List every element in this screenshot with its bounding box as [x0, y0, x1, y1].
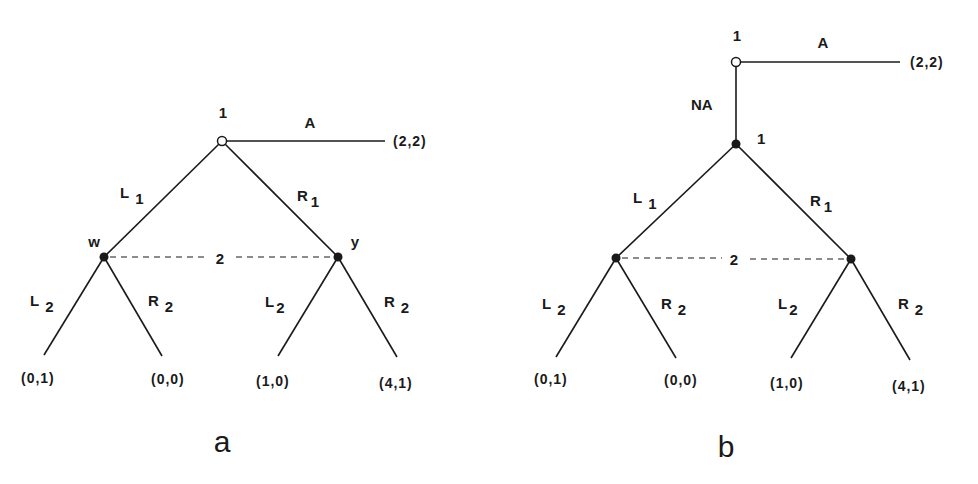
edge-b-R1 — [736, 144, 851, 259]
move-L1-label: L1 — [120, 185, 144, 200]
edge-b-right-L2 — [791, 259, 851, 358]
panel-caption: b — [718, 432, 735, 462]
game-tree-edges — [0, 0, 978, 484]
terminal-payoff: (1,0) — [256, 374, 290, 388]
move-R2-label: R2 — [661, 296, 686, 311]
edge-a-R1 — [225, 144, 338, 257]
move-R1-label: R1 — [297, 188, 319, 203]
root-player-label: 1 — [733, 28, 741, 43]
terminal-payoff: (0,1) — [534, 372, 568, 386]
move-L2-label: L2 — [30, 293, 54, 308]
terminal-payoff: (0,0) — [151, 372, 185, 386]
node-b-left-filled — [612, 254, 621, 263]
exit-payoff: (2,2) — [910, 55, 944, 69]
edge-a-y-L2 — [278, 257, 338, 356]
action-A-label: A — [818, 35, 829, 50]
action-NA-label: NA — [691, 97, 713, 112]
info-set-player-label: 2 — [216, 251, 224, 266]
move-L2-label: L2 — [778, 296, 798, 311]
node-b-right-filled — [847, 255, 856, 264]
move-R1-label: R1 — [810, 193, 832, 208]
node-label-w: w — [88, 234, 100, 249]
node-a-w-filled — [100, 253, 109, 262]
terminal-payoff: (4,1) — [379, 376, 413, 390]
node-a-y-filled — [334, 253, 343, 262]
action-A-label: A — [305, 115, 316, 130]
node-a-root-open — [218, 137, 227, 146]
node-b-root-open — [732, 58, 741, 67]
move-L2-label: L2 — [265, 294, 285, 309]
move-R2-label: R2 — [384, 294, 409, 309]
info-set-player-label: 2 — [730, 252, 738, 267]
move-L1-label: L1 — [633, 190, 657, 205]
node-b-second-filled — [732, 140, 741, 149]
move-R2-label: R2 — [148, 293, 173, 308]
root-player-label: 1 — [219, 105, 227, 120]
exit-payoff: (2,2) — [393, 134, 427, 148]
second-node-player-label: 1 — [757, 131, 765, 146]
terminal-payoff: (1,0) — [770, 376, 804, 390]
node-label-y: y — [351, 234, 359, 249]
terminal-payoff: (0,0) — [664, 373, 698, 387]
terminal-payoff: (4,1) — [892, 379, 926, 393]
move-L2-label: L2 — [542, 296, 566, 311]
panel-caption: a — [214, 427, 231, 457]
terminal-payoff: (0,1) — [21, 371, 55, 385]
move-R2-label: R2 — [898, 296, 923, 311]
